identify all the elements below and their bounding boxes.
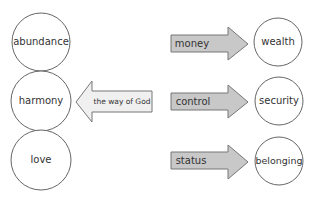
label-belonging: belonging	[255, 156, 302, 166]
label-control: control	[176, 97, 211, 107]
label-money: money	[175, 39, 209, 49]
label-the-way-of-god: the way of God	[93, 98, 150, 106]
label-love: love	[31, 155, 52, 165]
label-abundance: abundance	[13, 37, 69, 47]
label-status: status	[176, 156, 207, 166]
label-security: security	[259, 96, 299, 106]
label-harmony: harmony	[19, 96, 64, 106]
label-wealth: wealth	[261, 37, 295, 47]
